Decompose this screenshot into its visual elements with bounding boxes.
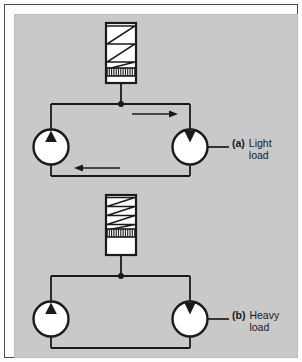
label-text-a-line1: Light — [249, 138, 272, 150]
figure-page: (a) Light load — [0, 0, 302, 362]
label-text-a-line2: load — [249, 150, 272, 162]
label-light-load: (a) Light load — [232, 138, 272, 162]
label-tag-b: (b) — [232, 310, 245, 322]
motor-a — [173, 130, 208, 165]
circuit-light-load: (a) Light load — [14, 14, 298, 186]
accumulator-b — [106, 195, 136, 255]
pump-a — [34, 130, 69, 165]
figure-panel: (a) Light load — [14, 14, 298, 358]
label-heavy-load: (b) Heavy load — [232, 310, 279, 334]
figure-frame: (a) Light load — [4, 4, 298, 358]
label-tag-a: (a) — [232, 138, 245, 150]
pump-b — [34, 302, 69, 337]
flow-arrow-return-a — [74, 164, 120, 171]
label-text-b-line2: load — [249, 322, 279, 334]
circuit-heavy-load: (b) Heavy load — [14, 186, 298, 358]
flow-arrow-supply-a — [132, 110, 178, 117]
accumulator-a — [106, 23, 136, 83]
label-text-b-line1: Heavy — [249, 310, 279, 322]
motor-b — [173, 302, 208, 337]
